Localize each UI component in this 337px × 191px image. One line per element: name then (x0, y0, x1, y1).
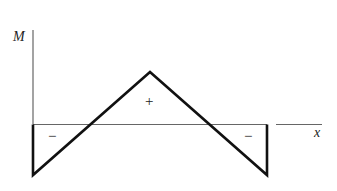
x-axis-label: x (314, 126, 320, 140)
moment-diagram-canvas (0, 0, 337, 191)
region-sign-right: − (244, 129, 252, 144)
y-axis-label: M (13, 30, 25, 44)
region-sign-left: − (48, 129, 56, 144)
region-sign-center: + (145, 94, 153, 109)
moment-curve (33, 72, 267, 175)
